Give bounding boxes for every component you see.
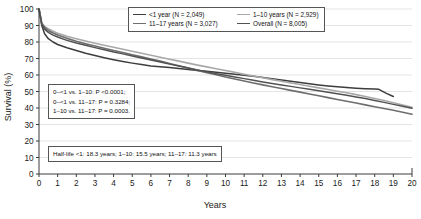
y-tick-label: 100 xyxy=(20,5,34,14)
x-tick-label: 1 xyxy=(55,179,60,188)
x-tick-label: 3 xyxy=(93,179,98,188)
y-tick-label: 70 xyxy=(24,55,34,64)
legend-label-11to17years: 11–17 years (N = 3,027) xyxy=(149,19,218,28)
x-tick-label: 16 xyxy=(333,179,343,188)
x-axis-ticks: 01234567891011121314151617181920 xyxy=(37,174,417,188)
halflife-annotation-box: Half-life <1: 18.3 years; 1–10: 15.5 yea… xyxy=(48,146,222,162)
pvalue-line-1: 0–<1 vs. 1–10: P <0.0001; xyxy=(53,87,130,97)
legend-row: 11–17 years (N = 3,027) Overall (N = 8,0… xyxy=(133,19,319,28)
x-tick-label: 9 xyxy=(205,179,210,188)
x-tick-label: 7 xyxy=(167,179,172,188)
legend-item-1to10years: 1–10 years (N = 2,929) xyxy=(237,10,319,19)
halflife-line-1: Half-life <1: 18.3 years; 1–10: 15.5 yea… xyxy=(53,149,217,159)
x-tick-label: 11 xyxy=(240,179,249,188)
x-tick-label: 12 xyxy=(258,179,268,188)
legend-swatch-1to10years xyxy=(237,14,250,15)
y-tick-label: 20 xyxy=(24,137,34,146)
x-tick-label: 5 xyxy=(130,179,135,188)
y-tick-label: 50 xyxy=(24,88,34,97)
chart-legend: <1 year (N = 2,049) 1–10 years (N = 2,92… xyxy=(128,7,325,32)
y-tick-label: 10 xyxy=(24,154,34,163)
y-tick-label: 80 xyxy=(24,38,34,47)
survival-curve-figure: 0102030405060708090100 01234567891011121… xyxy=(0,0,421,219)
x-tick-label: 10 xyxy=(221,179,231,188)
x-axis-title: Years xyxy=(204,200,227,210)
x-tick-label: 2 xyxy=(74,179,79,188)
legend-swatch-lt1year xyxy=(133,14,146,15)
legend-item-11to17years: 11–17 years (N = 3,027) xyxy=(133,19,237,28)
x-tick-label: 15 xyxy=(314,179,324,188)
pvalue-line-3: 1–10 vs. 11–17: P = 0.0003. xyxy=(53,106,130,116)
x-tick-label: 20 xyxy=(407,179,417,188)
pvalue-line-2: 0–<1 vs. 11–17: P = 0.3284; xyxy=(53,97,130,107)
legend-label-lt1year: <1 year (N = 2,049) xyxy=(149,10,204,19)
y-tick-label: 30 xyxy=(24,121,34,130)
legend-item-lt1year: <1 year (N = 2,049) xyxy=(133,10,237,19)
legend-swatch-11to17years xyxy=(133,23,146,24)
x-tick-label: 13 xyxy=(277,179,287,188)
legend-label-overall: Overall (N = 8,005) xyxy=(253,19,307,28)
y-tick-label: 60 xyxy=(24,71,34,80)
x-tick-label: 18 xyxy=(370,179,380,188)
y-tick-label: 0 xyxy=(29,170,34,179)
legend-swatch-overall xyxy=(237,23,250,24)
legend-item-overall: Overall (N = 8,005) xyxy=(237,19,307,28)
x-tick-label: 6 xyxy=(149,179,154,188)
y-tick-label: 40 xyxy=(24,104,34,113)
pvalue-annotation-box: 0–<1 vs. 1–10: P <0.0001; 0–<1 vs. 11–17… xyxy=(48,84,135,119)
legend-row: <1 year (N = 2,049) 1–10 years (N = 2,92… xyxy=(133,10,319,19)
y-tick-label: 90 xyxy=(24,22,34,31)
y-axis-title: Survival (%) xyxy=(3,73,13,122)
x-tick-label: 8 xyxy=(186,179,191,188)
x-tick-label: 17 xyxy=(351,179,361,188)
x-tick-label: 19 xyxy=(389,179,399,188)
x-tick-label: 0 xyxy=(37,179,42,188)
legend-label-1to10years: 1–10 years (N = 2,929) xyxy=(253,10,319,19)
x-tick-label: 4 xyxy=(111,179,116,188)
y-axis-ticks: 0102030405060708090100 xyxy=(20,5,39,179)
x-tick-label: 14 xyxy=(296,179,306,188)
